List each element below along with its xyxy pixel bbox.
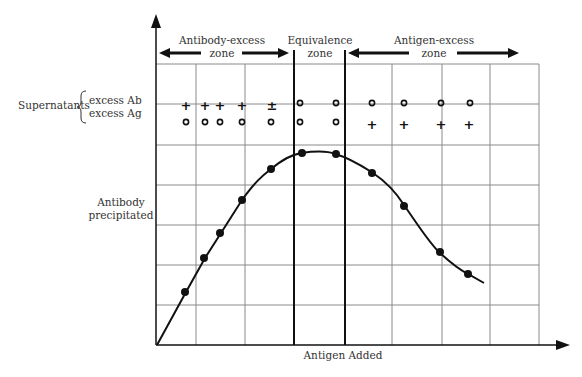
data-points — [181, 149, 472, 296]
data-point — [200, 254, 208, 262]
x-axis-label: Antigen Added — [303, 349, 383, 361]
equivalence-boundaries — [294, 50, 345, 345]
arrow-right-icon — [508, 48, 519, 58]
precipitation-curve — [157, 152, 484, 345]
arrow-left-icon — [348, 48, 359, 58]
svg-text:+: + — [399, 117, 410, 132]
svg-text:+: + — [367, 117, 378, 132]
data-point — [238, 196, 246, 204]
svg-text:+: + — [181, 98, 192, 113]
data-point — [368, 169, 376, 177]
data-point — [216, 229, 224, 237]
excess-ag-label: excess Ag — [89, 107, 142, 119]
data-point — [464, 270, 472, 278]
svg-text:+: + — [436, 117, 447, 132]
y-axis-arrow-icon — [151, 14, 161, 28]
arrow-right-icon — [278, 48, 289, 58]
data-point — [332, 150, 340, 158]
zone-antigen-excess-sublabel: zone — [422, 47, 447, 59]
supernatant-row-excess-ab: + + + + ± — [181, 98, 473, 113]
y-axis-label-line2: precipitated — [89, 209, 154, 221]
zone-antigen-excess-label: Antigen-excess — [393, 34, 474, 46]
svg-text:+: + — [464, 117, 475, 132]
excess-ab-label: excess Ab — [89, 94, 142, 106]
svg-text:+: + — [200, 98, 211, 113]
x-axis-arrow-icon — [556, 340, 570, 350]
data-point — [181, 288, 189, 296]
precipitin-curve-diagram: Antibody-excess zone Equivalence zone An… — [0, 0, 582, 377]
zone-equivalence-label: Equivalence — [287, 34, 352, 46]
grid — [156, 64, 539, 345]
supernatants-label: Supernatants — [18, 99, 90, 111]
zone-antibody-excess-label: Antibody-excess — [178, 34, 265, 46]
arrow-left-icon — [159, 48, 170, 58]
supernatant-row-excess-ag: + + + + — [183, 117, 474, 132]
y-axis-label: Antibody — [96, 196, 145, 208]
svg-text:±: ± — [267, 98, 278, 113]
svg-text:+: + — [237, 98, 248, 113]
data-point — [436, 248, 444, 256]
data-point — [267, 165, 275, 173]
data-point — [298, 149, 306, 157]
zone-antibody-excess-sublabel: zone — [210, 47, 235, 59]
data-point — [400, 202, 408, 210]
svg-text:+: + — [215, 98, 226, 113]
zone-equivalence-sublabel: zone — [308, 47, 333, 59]
